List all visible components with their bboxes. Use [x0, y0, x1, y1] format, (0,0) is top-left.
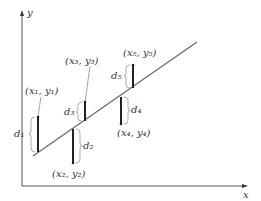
point-label-4: (x₄, y₄) [117, 128, 150, 138]
data-point-5 [132, 64, 135, 67]
brace-d3 [76, 102, 82, 121]
data-point-2 [72, 162, 75, 165]
brace-d5 [124, 65, 130, 88]
data-point-4 [120, 123, 123, 126]
deviation-label-d3: d₃ [64, 107, 74, 117]
regression-diagram [0, 0, 261, 201]
brace-d1 [29, 117, 35, 152]
point-label-3: (x₃, y₃) [65, 56, 98, 66]
point-label-5: (x₅, y₅) [123, 48, 156, 58]
deviation-label-d1: d₁ [14, 129, 24, 139]
point-label-1: (x₁, y₁) [25, 86, 58, 96]
point-label-2: (x₂, y₂) [52, 169, 85, 179]
leader-line-1 [38, 97, 41, 116]
brace-d4 [124, 97, 130, 124]
brace-d2 [76, 129, 82, 163]
data-point-1 [37, 116, 40, 119]
axes [20, 10, 248, 188]
deviation-label-d2: d₂ [83, 141, 93, 151]
deviation-label-d5: d₅ [111, 71, 121, 81]
y-axis-arrow-icon [20, 10, 24, 16]
x-axis-arrow-icon [242, 184, 248, 188]
x-axis-label: x [243, 190, 249, 200]
leader-line-3 [85, 66, 90, 102]
deviation-label-d4: d₄ [131, 105, 141, 115]
y-axis-label: y [27, 8, 33, 18]
data-point-3 [84, 101, 87, 104]
regression-line [33, 42, 197, 156]
